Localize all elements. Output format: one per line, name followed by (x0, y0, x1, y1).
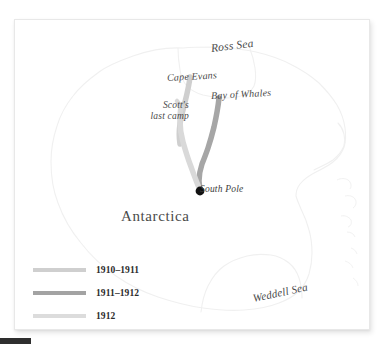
peninsula-islands-7 (353, 278, 358, 286)
label-scotts-last-camp-line1: Scott's (163, 100, 189, 110)
label-antarctica: Antarctica (121, 208, 189, 225)
legend-label-1911-1912: 1911–1912 (96, 288, 139, 298)
legend-label-1910-1911: 1910–1911 (96, 265, 139, 275)
map-legend: 1910–1911 1911–1912 1912 (33, 258, 163, 327)
corner-scrollbar-artifact (0, 338, 31, 344)
weddell-sea-coast (201, 254, 302, 312)
label-south-pole: South Pole (200, 184, 243, 195)
peninsula-islands-5 (351, 248, 357, 254)
legend-item-1910-1911[interactable]: 1910–1911 (33, 258, 163, 281)
map-card: Ross Sea Cape Evans Bay of Whales Scott'… (14, 19, 370, 330)
peninsula-islands-1 (337, 179, 351, 190)
legend-item-1911-1912[interactable]: 1911–1912 (33, 281, 163, 304)
legend-swatch-1911-1912 (33, 291, 86, 295)
legend-label-1912: 1912 (96, 311, 115, 321)
legend-swatch-1912 (33, 314, 86, 318)
peninsula-islands-2 (345, 196, 356, 208)
peninsula-islands-4 (347, 232, 355, 237)
legend-item-1912[interactable]: 1912 (33, 304, 163, 327)
label-scotts-last-camp-line2: last camp (151, 111, 189, 121)
antarctic-peninsula (314, 123, 345, 170)
peninsula-islands-3 (341, 216, 351, 227)
label-scotts-last-camp: Scott's last camp (133, 100, 189, 122)
peninsula-islands-6 (345, 261, 353, 268)
route-1911-1912-line (199, 98, 219, 190)
legend-swatch-1910-1911 (33, 268, 86, 272)
